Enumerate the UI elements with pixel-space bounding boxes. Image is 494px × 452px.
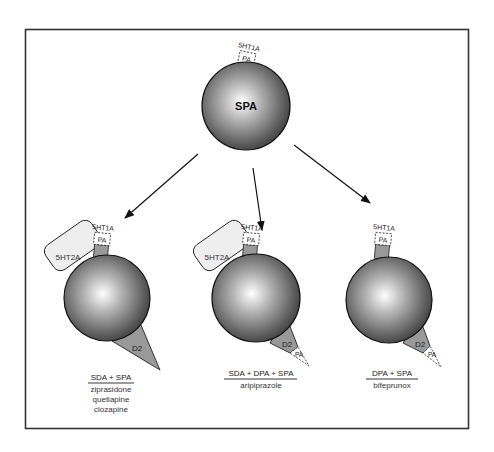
drug-ziprasidone: ziprasidone — [91, 385, 132, 394]
mechanism-label: SDA + SPA — [91, 373, 132, 382]
drug-quetiapine: quetiapine — [93, 395, 130, 404]
right-sphere — [346, 257, 432, 343]
spa-sphere-label: SPA — [235, 100, 257, 112]
drug-bifeprunox: bifeprunox — [373, 381, 410, 390]
5ht2a-label: 5HT2A — [205, 253, 231, 262]
middle-sphere — [212, 254, 300, 342]
d2-label: D2 — [415, 340, 426, 349]
drug-clozapine: clozapine — [94, 405, 128, 414]
5ht2a-label: 5HT2A — [56, 253, 82, 262]
d2-label: D2 — [132, 344, 143, 353]
pa-label: PA — [97, 236, 107, 244]
left-sphere — [64, 255, 150, 341]
pa-label: PA — [246, 236, 256, 244]
d2-pa-label: PA — [295, 351, 304, 358]
mechanism-label: DPA + SPA — [372, 369, 413, 378]
pa-label: PA — [378, 236, 388, 244]
receptor-diagram: PA 5HT1A SPA 5HT2A PA 5HT1A D2 SDA + SPA… — [0, 0, 494, 452]
mechanism-label: SDA + DPA + SPA — [228, 369, 294, 378]
d2-pa-label: PA — [428, 351, 437, 358]
d2-label: D2 — [282, 340, 293, 349]
drug-aripiprazole: aripiprazole — [240, 381, 282, 390]
